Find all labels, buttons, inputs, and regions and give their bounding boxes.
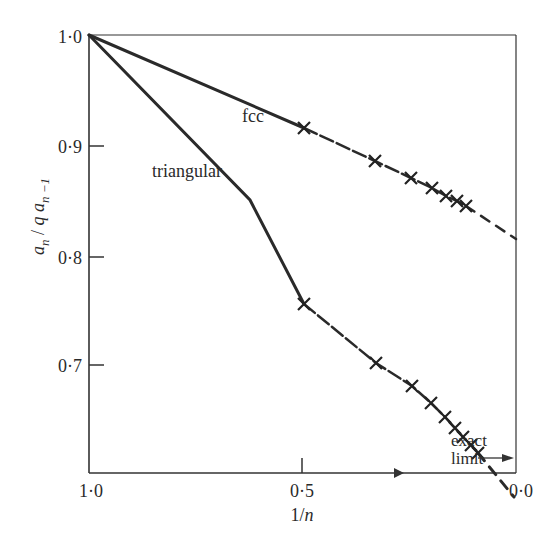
series-fcc bbox=[89, 35, 516, 239]
chart: 1·0 0·9 0·8 0·7 1·0 0·5 0·0 1/n an / q a… bbox=[0, 0, 555, 549]
x-tick-label: 1·0 bbox=[79, 481, 103, 501]
y-axis-label: an / q an −1 bbox=[28, 178, 52, 255]
svg-text:an / q an −1: an / q an −1 bbox=[28, 178, 52, 255]
triangular-label: triangular bbox=[152, 161, 222, 181]
exact-limit-label: exact bbox=[451, 431, 487, 450]
y-tick-label: 0·8 bbox=[58, 248, 82, 268]
y-tick-label: 0·9 bbox=[58, 137, 82, 157]
series-triangular bbox=[89, 35, 514, 497]
y-tick-label: 1·0 bbox=[58, 27, 82, 47]
x-axis-label: 1/n bbox=[290, 505, 313, 525]
x-tick-label: 0·0 bbox=[509, 481, 533, 501]
x-tick-label: 0·5 bbox=[290, 481, 314, 501]
fcc-label: fcc bbox=[242, 106, 264, 126]
x-axis-arrow-icon bbox=[394, 468, 404, 478]
arrow-head-icon bbox=[502, 454, 514, 462]
y-ticks bbox=[89, 146, 104, 365]
y-tick-label: 0·7 bbox=[58, 356, 82, 376]
